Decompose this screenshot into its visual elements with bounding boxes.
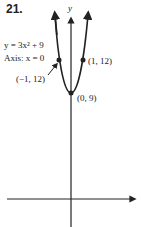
pointer-arrow: [48, 65, 56, 75]
point-left-label: (−1, 12): [16, 74, 45, 84]
point-right-label: (1, 12): [88, 56, 112, 66]
vertex-label: (0, 9): [77, 93, 97, 103]
axis-label: Axis: x = 0: [4, 53, 44, 63]
equation-label: y = 3x² + 9: [4, 40, 44, 50]
y-axis-label: y: [68, 3, 72, 13]
parabola-graph: [0, 0, 141, 227]
point-left: [57, 58, 62, 63]
vertex-point: [69, 91, 74, 96]
point-right: [81, 58, 86, 63]
